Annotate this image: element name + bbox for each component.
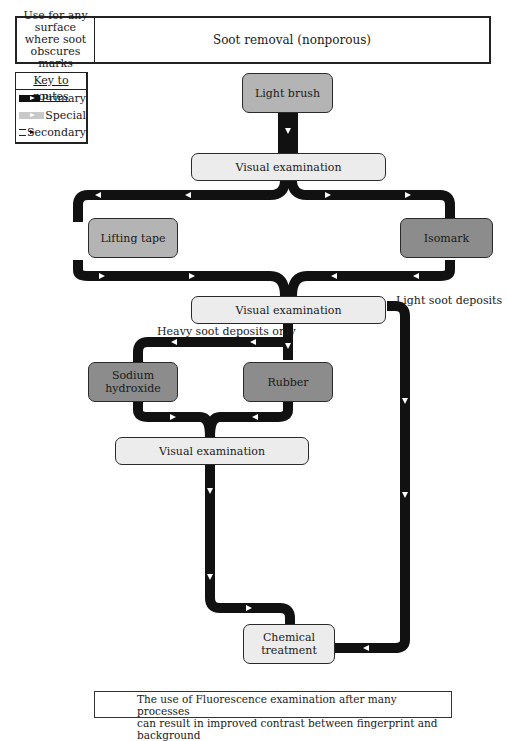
label-light-soot: Light soot deposits (396, 294, 502, 307)
node-isomark: Isomark (400, 218, 493, 258)
node-sodium-hydroxide: Sodium hydroxide (88, 362, 178, 402)
node-rubber: Rubber (243, 362, 333, 402)
footer-line-1: The use of Fluorescence examination afte… (137, 693, 451, 717)
node-lifting-tape: Lifting tape (88, 218, 178, 258)
label-heavy-soot: Heavy soot deposits only (157, 325, 296, 338)
node-light-brush: Light brush (242, 73, 333, 113)
node-chemical-treatment: Chemical treatment (243, 624, 335, 664)
node-visual-examination-2: Visual examination (191, 296, 386, 324)
footer-line-2: can result in improved contrast between … (137, 717, 451, 741)
node-visual-examination-3: Visual examination (115, 437, 309, 465)
node-visual-examination-1: Visual examination (191, 153, 386, 181)
footer-note: The use of Fluorescence examination afte… (94, 691, 452, 718)
